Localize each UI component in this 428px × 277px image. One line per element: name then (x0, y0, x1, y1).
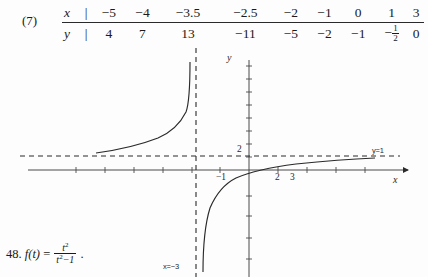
row-label-y: y (62, 23, 80, 44)
x-cell-2: −3.5 (159, 4, 216, 23)
x-tick-label-3: 3 (290, 172, 295, 182)
vertical-asymptote-label: x=−3 (163, 262, 179, 271)
x-cell-8: 3 (408, 4, 424, 23)
exercise-equals: = (43, 247, 50, 261)
problem-number: (7) (22, 13, 37, 29)
exercise-fraction-numerator: t2 (54, 242, 76, 254)
fraction-sign: − (385, 25, 393, 40)
table-row: y | 4 7 13 −11 −5 −2 −1 −12 0 (62, 23, 424, 44)
fraction-half: 12 (392, 24, 399, 44)
x-cell-6: 0 (341, 4, 375, 23)
table-row: x | −5 −4 −3.5 −2.5 −2 −1 0 1 3 (62, 4, 424, 23)
exercise-period: . (81, 247, 84, 261)
exercise-function-name: f(t) (25, 247, 40, 261)
exercise-fraction: t2 t2−1 (54, 242, 76, 266)
y-cell-2: 13 (159, 23, 216, 44)
horizontal-asymptote-label: y=1 (372, 146, 384, 155)
y-cell-6: −1 (341, 23, 375, 44)
exercise-48: 48. f(t) = t2 t2−1 . (6, 243, 84, 267)
curve-left-branch (96, 62, 190, 153)
x-cell-4: −2 (274, 4, 308, 23)
y-cell-1: 7 (126, 23, 160, 44)
value-table: x | −5 −4 −3.5 −2.5 −2 −1 0 1 3 y | 4 7 … (62, 4, 424, 44)
y-cell-3: −11 (217, 23, 274, 44)
y-tick-label-2: 2 (237, 144, 242, 154)
numerator-exponent: 2 (65, 241, 69, 249)
value-table-grid: x | −5 −4 −3.5 −2.5 −2 −1 0 1 3 y | 4 7 … (62, 4, 424, 44)
x-axis-label: x (393, 174, 397, 185)
x-cell-1: −4 (126, 4, 160, 23)
y-cell-7-fraction: −12 (375, 23, 408, 44)
y-cell-4: −5 (274, 23, 308, 44)
x-cell-3: −2.5 (217, 4, 274, 23)
row-divider-x: | (80, 4, 92, 23)
denominator-tail: −1 (63, 255, 75, 266)
row-label-x: x (62, 4, 80, 23)
exercise-fraction-denominator: t2−1 (54, 254, 76, 265)
y-cell-0: 4 (92, 23, 126, 44)
exercise-number: 48. (6, 247, 22, 261)
curve-right-branch (203, 158, 375, 272)
y-cell-8: 0 (408, 23, 424, 44)
y-axis-label: y (227, 52, 231, 63)
x-tick-label-2: 2 (275, 172, 280, 182)
x-tick-label-minus1: −1 (216, 172, 226, 182)
x-cell-5: −1 (308, 4, 342, 23)
x-cell-0: −5 (92, 4, 126, 23)
y-cell-5: −2 (308, 23, 342, 44)
textbook-page-fragment: (7) x | −5 −4 −3.5 −2.5 −2 −1 0 1 3 y | … (0, 0, 428, 277)
row-divider-y: | (80, 23, 92, 44)
fraction-denominator: 2 (392, 34, 399, 43)
x-cell-7: 1 (375, 4, 408, 23)
